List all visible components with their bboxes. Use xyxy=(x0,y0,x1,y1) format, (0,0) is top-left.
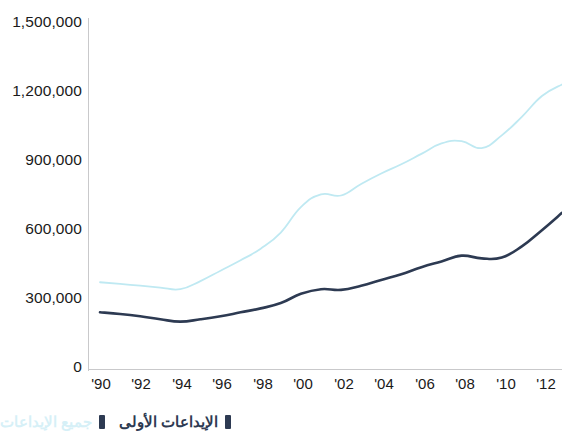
legend-label-all-filings: جميع الإيداعات xyxy=(0,415,92,430)
y-tick-label-900000: 900,000 xyxy=(2,151,82,169)
y-tick-label-0: 0 xyxy=(2,358,82,376)
legend-swatch-icon-first-filings xyxy=(225,415,231,429)
legend-item-all-filings[interactable]: جميع الإيداعات xyxy=(0,415,105,430)
legend-label-first-filings: الإيداعات الأولى xyxy=(119,415,218,430)
x-tick-label-1992: '92 xyxy=(121,375,161,392)
chart-legend: الإيداعات الأولى جميع الإيداعات xyxy=(0,405,574,439)
plot-area xyxy=(88,22,562,369)
y-tick-label-300000: 300,000 xyxy=(2,289,82,307)
line-chart: 1,500,000 1,200,000 900,000 600,000 300,… xyxy=(0,0,574,439)
y-tick-label-1200000: 1,200,000 xyxy=(2,82,82,100)
x-tick-label-2000: '00 xyxy=(283,375,323,392)
legend-item-first-filings[interactable]: الإيداعات الأولى xyxy=(119,415,231,430)
x-tick-label-2006: '06 xyxy=(405,375,445,392)
x-tick-label-2012: '12 xyxy=(526,375,566,392)
x-tick-label-2008: '08 xyxy=(445,375,485,392)
x-tick-label-1990: '90 xyxy=(81,375,121,392)
x-axis-line xyxy=(88,369,562,370)
series-plot-svg xyxy=(88,22,562,369)
x-tick-label-2004: '04 xyxy=(364,375,404,392)
x-tick-label-1994: '94 xyxy=(162,375,202,392)
x-tick-label-2002: '02 xyxy=(324,375,364,392)
x-tick-label-2010: '10 xyxy=(486,375,526,392)
legend-swatch-icon-all-filings xyxy=(99,415,105,429)
series-line-first-filings xyxy=(100,213,562,322)
y-tick-label-1500000: 1,500,000 xyxy=(2,13,82,31)
x-tick-label-1998: '98 xyxy=(243,375,283,392)
x-tick-label-1996: '96 xyxy=(202,375,242,392)
y-tick-label-600000: 600,000 xyxy=(2,220,82,238)
